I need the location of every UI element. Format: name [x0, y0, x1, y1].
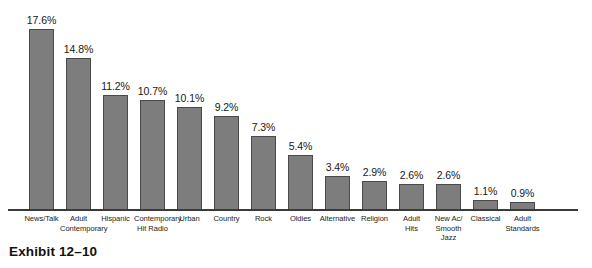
category-label-line: Country: [208, 214, 245, 224]
category-label-line: Hits: [393, 224, 430, 234]
category-label-line: Urban: [171, 214, 208, 224]
bar: [436, 184, 461, 211]
bar-group: 9.2%: [208, 8, 245, 211]
bar-value-label: 3.4%: [326, 161, 350, 173]
category-label: AdultStandards: [504, 212, 541, 242]
bar-group: 0.9%: [504, 8, 541, 211]
category-label: Alternative: [319, 212, 356, 242]
bar-value-label: 5.4%: [289, 140, 313, 152]
category-label: Classical: [467, 212, 504, 242]
category-label: Urban: [171, 212, 208, 242]
category-label-line: Religion: [356, 214, 393, 224]
bar-group: 2.6%: [430, 8, 467, 211]
bar: [103, 95, 128, 211]
bar-value-label: 2.9%: [363, 166, 387, 178]
bar-group: 1.1%: [467, 8, 504, 211]
bar: [177, 107, 202, 211]
category-label-line: Contemporary: [60, 224, 97, 234]
bar-value-label: 10.7%: [138, 85, 167, 97]
bar-value-label: 11.2%: [101, 80, 130, 92]
bar: [399, 184, 424, 211]
category-label-line: Rock: [245, 214, 282, 224]
category-label-line: Adult: [504, 214, 541, 224]
bar-series: 17.6%14.8%11.2%10.7%10.1%9.2%7.3%5.4%3.4…: [8, 8, 584, 211]
category-label-line: Hit Radio: [134, 224, 171, 234]
category-label: Oldies: [282, 212, 319, 242]
category-label-line: Smooth Jazz: [430, 224, 467, 243]
bar: [288, 155, 313, 211]
category-label-line: Adult: [393, 214, 430, 224]
bar: [362, 181, 387, 211]
bar: [66, 58, 91, 211]
category-label: AdultContemporary: [60, 212, 97, 242]
category-label-line: Classical: [467, 214, 504, 224]
bar: [29, 29, 54, 211]
category-label: New Ac/Smooth Jazz: [430, 212, 467, 242]
bar-value-label: 1.1%: [474, 185, 498, 197]
category-label-line: Oldies: [282, 214, 319, 224]
category-label-line: New Ac/: [430, 214, 467, 224]
category-label-line: News/Talk: [23, 214, 60, 224]
x-axis-baseline: [8, 209, 578, 211]
bar-value-label: 10.1%: [175, 92, 204, 104]
bar-value-label: 2.6%: [437, 169, 461, 181]
chart-plot-area: 17.6%14.8%11.2%10.7%10.1%9.2%7.3%5.4%3.4…: [8, 6, 584, 211]
bar-chart-figure: 17.6%14.8%11.2%10.7%10.1%9.2%7.3%5.4%3.4…: [0, 0, 592, 268]
bar-group: 2.9%: [356, 8, 393, 211]
exhibit-caption: Exhibit 12–10: [9, 244, 97, 259]
bar-group: 14.8%: [60, 8, 97, 211]
bar: [325, 176, 350, 211]
category-label: ContemporaryHit Radio: [134, 212, 171, 242]
bar-group: 10.7%: [134, 8, 171, 211]
bar-group: 10.1%: [171, 8, 208, 211]
bar-value-label: 9.2%: [215, 101, 239, 113]
bar-group: 2.6%: [393, 8, 430, 211]
category-label-line: Adult: [60, 214, 97, 224]
category-label-line: Alternative: [319, 214, 356, 224]
category-label: Hispanic: [97, 212, 134, 242]
category-label: Rock: [245, 212, 282, 242]
bar-group: 5.4%: [282, 8, 319, 211]
category-label-line: Standards: [504, 224, 541, 234]
category-label: Country: [208, 212, 245, 242]
bar-value-label: 2.6%: [400, 169, 424, 181]
bar-value-label: 17.6%: [27, 14, 56, 26]
bar-value-label: 7.3%: [252, 121, 276, 133]
bar: [214, 116, 239, 211]
category-label: AdultHits: [393, 212, 430, 242]
bar: [140, 100, 165, 211]
bar-group: 7.3%: [245, 8, 282, 211]
bar-group: 11.2%: [97, 8, 134, 211]
x-axis-category-labels: News/TalkAdultContemporaryHispanicContem…: [8, 212, 584, 242]
bar-group: 17.6%: [23, 8, 60, 211]
bar: [251, 136, 276, 211]
bar-value-label: 0.9%: [511, 187, 535, 199]
category-label: News/Talk: [23, 212, 60, 242]
category-label-line: Contemporary: [134, 214, 171, 224]
bar-group: 3.4%: [319, 8, 356, 211]
category-label-line: Hispanic: [97, 214, 134, 224]
category-label: Religion: [356, 212, 393, 242]
bar-value-label: 14.8%: [64, 43, 93, 55]
